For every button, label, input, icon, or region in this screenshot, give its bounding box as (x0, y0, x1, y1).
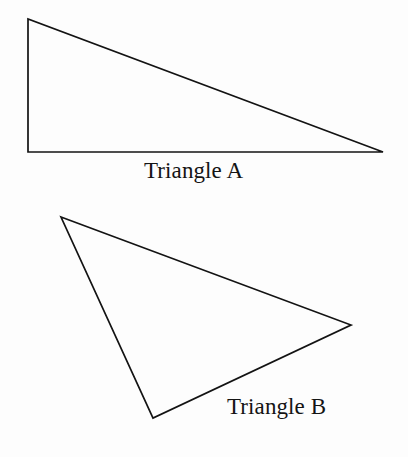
triangle-b-label: Triangle B (227, 395, 326, 418)
triangles-figure (0, 0, 408, 457)
triangle-b-shape (61, 217, 351, 418)
triangle-a-shape (28, 19, 383, 152)
triangle-a-label: Triangle A (144, 159, 243, 182)
figure-canvas: Triangle A Triangle B (0, 0, 408, 457)
